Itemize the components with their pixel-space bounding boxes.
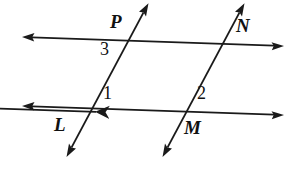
right-transversal-segment — [168, 13, 240, 148]
point-label-p: P — [110, 12, 122, 31]
top-horizontal-segment — [32, 37, 274, 45]
point-label-n: N — [236, 16, 250, 35]
right-transversal-group — [163, 3, 245, 157]
angle-label-1: 1 — [103, 84, 112, 102]
left-transversal-bottom-arrowhead — [67, 144, 77, 157]
angle-label-2: 2 — [197, 84, 206, 102]
point-label-m: M — [184, 118, 201, 137]
point-label-l: L — [54, 115, 66, 134]
left-transversal-segment — [72, 13, 144, 148]
left-transversal-group — [67, 3, 149, 157]
angle-label-3: 3 — [100, 40, 109, 58]
left-transversal-top-arrowhead — [139, 3, 149, 16]
geometry-canvas — [0, 0, 298, 176]
right-transversal-bottom-arrowhead — [163, 144, 173, 157]
geometry-figure: P N L M 3 1 2 — [0, 0, 298, 176]
